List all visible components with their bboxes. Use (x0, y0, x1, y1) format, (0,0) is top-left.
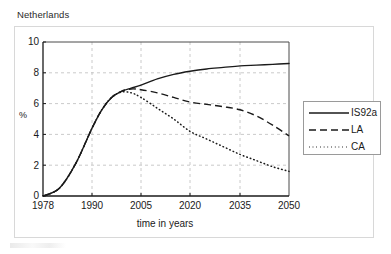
x-tick-label: 1978 (23, 200, 63, 211)
legend-label: CA (351, 141, 365, 153)
legend-item-ca: CA (304, 138, 382, 156)
legend-swatch-dotted-icon (309, 146, 349, 148)
legend-swatch-solid-icon (309, 112, 349, 114)
series-line-la (43, 89, 289, 196)
y-tick-label: 4 (17, 129, 39, 140)
x-tick-label: 1990 (72, 200, 112, 211)
y-tick-label: 10 (17, 36, 39, 47)
y-tick-label: 2 (17, 160, 39, 171)
chart-figure: Netherlands (0, 0, 391, 254)
legend-item-la: LA (304, 121, 382, 139)
scan-artifact (10, 243, 66, 248)
legend-label: IS92a (351, 107, 377, 119)
x-tick-label: 2050 (269, 200, 309, 211)
y-axis-title: % (19, 110, 27, 120)
grid-vertical (92, 42, 240, 196)
chart-legend: IS92a LA CA (303, 101, 381, 155)
legend-swatch-dashed-icon (309, 129, 349, 131)
x-tick-label: 2035 (220, 200, 260, 211)
series-line-is92a (43, 64, 289, 196)
x-tick-label: 2005 (121, 200, 161, 211)
series-line-ca (43, 92, 289, 196)
grid-horizontal (43, 73, 289, 165)
data-curves (43, 64, 289, 196)
y-tick-label: 8 (17, 67, 39, 78)
legend-item-is92a: IS92a (304, 104, 382, 122)
x-axis-title: time in years (0, 218, 330, 229)
x-tick-label: 2020 (170, 200, 210, 211)
legend-label: LA (351, 124, 363, 136)
axis-ticks (43, 42, 240, 196)
y-tick-label: 6 (17, 98, 39, 109)
